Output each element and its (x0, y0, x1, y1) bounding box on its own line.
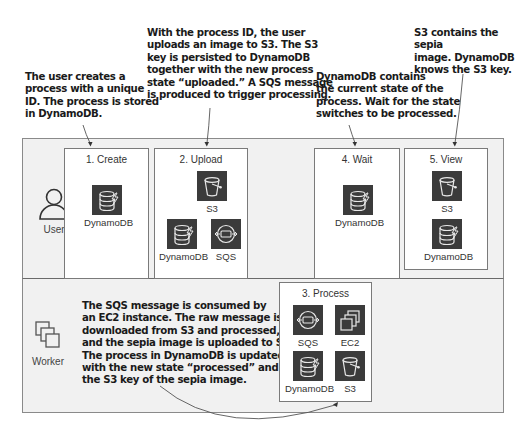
worker-label: Worker (32, 356, 64, 367)
service-s3: S3 (327, 351, 373, 394)
ec2-icon (337, 307, 363, 333)
step-create: 1. Create DynamoDB (64, 148, 149, 279)
annotation-process: The SQS message is consumed by an EC2 in… (82, 300, 293, 387)
service-dynamodb: DynamoDB (84, 185, 130, 228)
s3-bucket-icon (434, 173, 460, 199)
sqs-icon (213, 221, 239, 247)
user-label: User (43, 224, 64, 235)
worker-instances-icon (30, 318, 66, 354)
annotation-wait: DynamoDB contains the current state of t… (316, 71, 460, 121)
step-process-title: 3. Process (280, 288, 371, 299)
service-sqs: SQS (203, 219, 249, 262)
annotation-upload: With the process ID, the user uploads an… (147, 27, 333, 101)
step-process: 3. Process SQS EC2 DynamoDB S3 (279, 282, 372, 402)
service-dynamodb: DynamoDB (424, 219, 470, 262)
service-sqs: SQS (285, 305, 331, 348)
sqs-icon (295, 307, 321, 333)
s3-bucket-icon (199, 173, 225, 199)
worker-actor: Worker (24, 318, 72, 367)
dynamodb-icon (345, 187, 371, 213)
service-s3: S3 (189, 171, 235, 214)
step-wait-title: 4. Wait (315, 154, 399, 165)
service-s3: S3 (424, 171, 470, 214)
step-create-title: 1. Create (65, 154, 148, 165)
dynamodb-icon (434, 221, 460, 247)
step-view-title: 5. View (405, 154, 487, 165)
step-upload-title: 2. Upload (155, 154, 247, 165)
dynamodb-icon (94, 187, 120, 213)
step-view: 5. View S3 DynamoDB (404, 148, 488, 270)
dynamodb-icon (295, 353, 321, 379)
service-ec2: EC2 (327, 305, 373, 348)
annotation-create: The user creates a process with a unique… (25, 71, 159, 121)
dynamodb-icon (169, 221, 195, 247)
annotation-view: S3 contains the sepia image. DynamoDB kn… (414, 27, 526, 77)
s3-bucket-icon (337, 353, 363, 379)
service-dynamodb: DynamoDB (335, 185, 381, 228)
step-wait: 4. Wait DynamoDB (314, 148, 400, 279)
service-dynamodb: DynamoDB (159, 219, 205, 262)
step-upload: 2. Upload S3 DynamoDB SQS (154, 148, 248, 279)
service-dynamodb: DynamoDB (285, 351, 331, 394)
